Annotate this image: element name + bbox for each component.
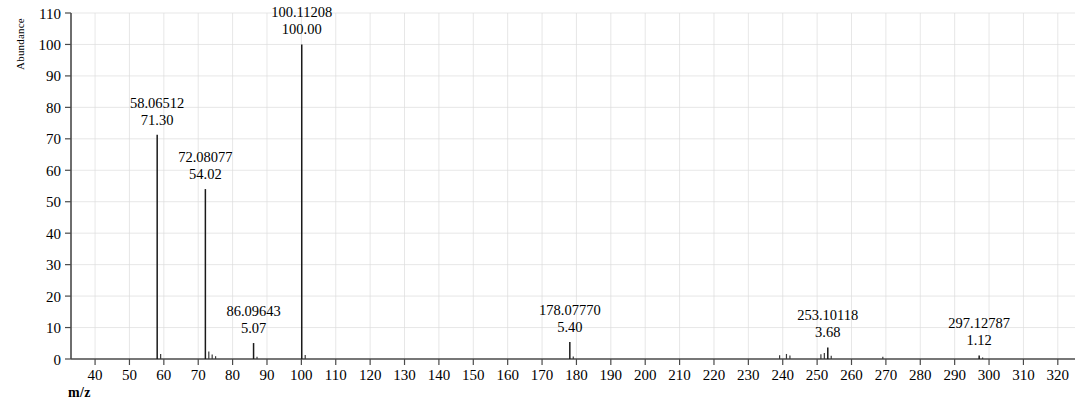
y-tick-label: 60 [46,163,61,179]
x-tick-label: 250 [806,367,829,383]
x-tick-label: 100 [290,367,313,383]
spectrum-plot-area: 0102030405060708090100110 40506070809010… [0,0,1082,405]
peak-intensity-label: 71.30 [141,112,174,128]
x-tick-label: 150 [462,367,485,383]
x-tick-label: 300 [978,367,1001,383]
x-tick-label: 160 [496,367,519,383]
x-tick-label: 110 [325,367,347,383]
x-tick-label: 40 [88,367,103,383]
x-tick-label: 90 [259,367,274,383]
x-tick-label: 290 [943,367,966,383]
y-tick-label: 80 [46,100,61,116]
x-tick-label: 170 [531,367,554,383]
peak-mz-label: 253.10118 [797,307,858,323]
x-tick-label: 260 [840,367,863,383]
peak-intensity-label: 100.00 [282,21,322,37]
x-tick-label: 140 [428,367,451,383]
x-tick-label: 320 [1047,367,1070,383]
y-tick-label: 110 [39,6,61,22]
y-tick-label: 50 [46,194,61,210]
x-tick-label: 190 [600,367,623,383]
y-tick-label: 90 [46,68,61,84]
peak-intensity-label: 5.40 [557,319,582,335]
x-tick-label: 220 [703,367,726,383]
y-tick-label: 0 [54,352,62,368]
x-tick-label: 120 [359,367,382,383]
peak-labels: 58.0651271.3072.0807754.0286.096435.0710… [130,4,1010,348]
x-tick-label: 280 [909,367,932,383]
peak-intensity-label: 54.02 [189,166,222,182]
peak-mz-label: 297.12787 [948,315,1010,331]
peak-intensity-label: 5.07 [241,320,266,336]
x-tick-label: 70 [191,367,206,383]
x-tick-label: 230 [737,367,760,383]
x-tick-label: 310 [1012,367,1035,383]
x-tick-label: 50 [122,367,137,383]
peak-intensity-label: 1.12 [966,332,991,348]
x-tick-label: 200 [634,367,657,383]
x-tick-label: 210 [668,367,691,383]
peak-intensity-label: 3.68 [815,324,840,340]
peak-mz-label: 178.07770 [539,302,601,318]
y-tick-label: 20 [46,289,61,305]
peak-mz-label: 100.11208 [271,4,332,20]
y-axis-ticks: 0102030405060708090100110 [39,6,72,368]
mass-spectrum-figure: Abundance m/z 0102030405060708090100110 … [0,0,1082,405]
y-tick-label: 100 [39,37,62,53]
y-tick-label: 70 [46,131,61,147]
y-tick-label: 40 [46,226,61,242]
y-tick-label: 10 [46,320,61,336]
y-tick-label: 30 [46,257,61,273]
x-tick-label: 130 [393,367,416,383]
peak-mz-label: 58.06512 [130,95,184,111]
x-axis-ticks: 4050607080901001101201301401501601701801… [88,359,1069,383]
x-tick-label: 270 [875,367,898,383]
x-tick-label: 60 [156,367,171,383]
x-tick-label: 80 [225,367,240,383]
peak-mz-label: 72.08077 [178,149,232,165]
x-tick-label: 180 [565,367,588,383]
x-tick-label: 240 [771,367,794,383]
peak-mz-label: 86.09643 [226,303,280,319]
